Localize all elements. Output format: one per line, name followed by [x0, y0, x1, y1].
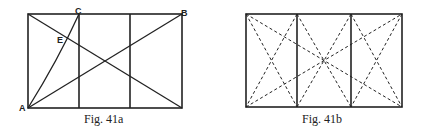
fig-41a-drawing — [28, 14, 182, 108]
point-label-b: B — [181, 8, 188, 18]
point-label-e: E — [57, 35, 63, 45]
diagram-canvas — [0, 0, 425, 133]
point-label-c: C — [75, 6, 82, 16]
fig-41b-caption: Fig. 41b — [302, 112, 342, 127]
fig-41b-drawing — [246, 14, 402, 107]
fig-41b-dashed-diagonals — [246, 14, 402, 107]
point-label-a: A — [19, 103, 26, 113]
fig-41a-arc-AC — [28, 14, 79, 108]
fig-41a-caption: Fig. 41a — [84, 112, 123, 127]
